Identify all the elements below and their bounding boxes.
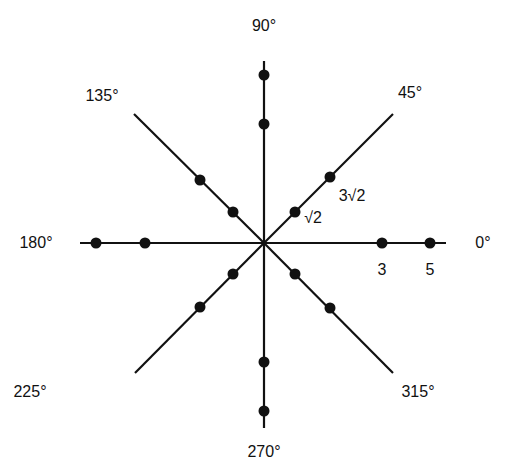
point-dot xyxy=(195,302,206,313)
angle-label: 90° xyxy=(252,17,276,35)
value-label: √2 xyxy=(304,209,322,227)
angle-label: 135° xyxy=(85,87,118,105)
point-dot xyxy=(259,406,270,417)
angle-label: 0° xyxy=(475,234,490,252)
polar-diagram xyxy=(0,0,510,472)
point-dot xyxy=(228,207,239,218)
point-dot xyxy=(290,207,301,218)
value-label: 3 xyxy=(378,261,387,279)
point-dot xyxy=(259,357,270,368)
value-label: 3√2 xyxy=(339,187,366,205)
angle-label: 45° xyxy=(398,84,422,102)
point-dot xyxy=(259,119,270,130)
point-dot xyxy=(228,269,239,280)
point-dot xyxy=(259,70,270,81)
point-dot xyxy=(195,175,206,186)
angle-label: 180° xyxy=(19,234,52,252)
point-dot xyxy=(377,238,388,249)
point-dot xyxy=(91,238,102,249)
value-label: 5 xyxy=(426,261,435,279)
angle-label: 270° xyxy=(247,443,280,461)
angle-label: 225° xyxy=(13,383,46,401)
point-dot xyxy=(140,238,151,249)
point-dot xyxy=(290,269,301,280)
point-dot xyxy=(425,238,436,249)
angle-label: 315° xyxy=(401,383,434,401)
point-dot xyxy=(325,303,336,314)
point-dot xyxy=(325,172,336,183)
